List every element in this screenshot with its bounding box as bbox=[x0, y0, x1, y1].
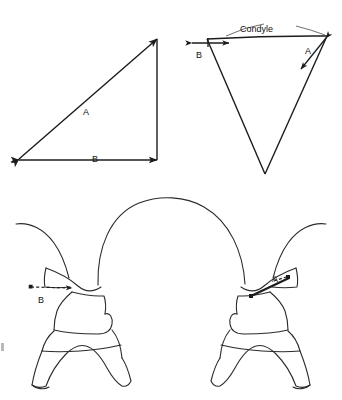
anatomy-b-label: B bbox=[38, 289, 44, 307]
triangle-left-hypotenuse-label: A bbox=[83, 101, 89, 119]
anatomy-a-arrow-head-upper bbox=[286, 275, 290, 279]
triangle-left-hypotenuse bbox=[19, 39, 157, 159]
triangle-right-left-side bbox=[207, 39, 265, 174]
triangle-right-right-side bbox=[265, 36, 327, 174]
right-molar-right-wall bbox=[288, 331, 300, 351]
left-ramus-body bbox=[54, 314, 112, 334]
edge-artifact bbox=[1, 343, 4, 351]
triangle-right-b-label: B bbox=[196, 44, 202, 62]
figure-container: A B Condyle B A B A bbox=[0, 0, 342, 400]
right-temporal-arch-upper bbox=[273, 224, 326, 278]
left-condyle-head bbox=[72, 292, 106, 314]
triangle-left-group bbox=[19, 39, 157, 160]
anatomy-a-arrow-head-lower bbox=[249, 294, 253, 298]
figure-canvas bbox=[0, 0, 342, 400]
right-ramus-body bbox=[230, 314, 288, 334]
anatomy-a-label: A bbox=[272, 268, 278, 286]
condyle-leader-right bbox=[296, 26, 325, 35]
left-condyle-neck bbox=[54, 292, 72, 330]
left-temporal-arch-upper bbox=[16, 224, 69, 278]
right-condyle-neck bbox=[270, 292, 288, 330]
anatomy-group bbox=[1, 198, 326, 389]
right-molar-left-wall bbox=[220, 330, 230, 358]
cranial-vault-outline bbox=[98, 198, 245, 285]
left-molar-right-wall bbox=[112, 330, 122, 358]
condyle-caption-label: Condyle bbox=[240, 18, 273, 36]
left-molar-left-wall bbox=[42, 331, 54, 351]
condyle-superior-surface bbox=[207, 36, 327, 39]
triangle-right-a-label: A bbox=[305, 40, 311, 58]
triangle-left-base-label: B bbox=[92, 148, 98, 166]
